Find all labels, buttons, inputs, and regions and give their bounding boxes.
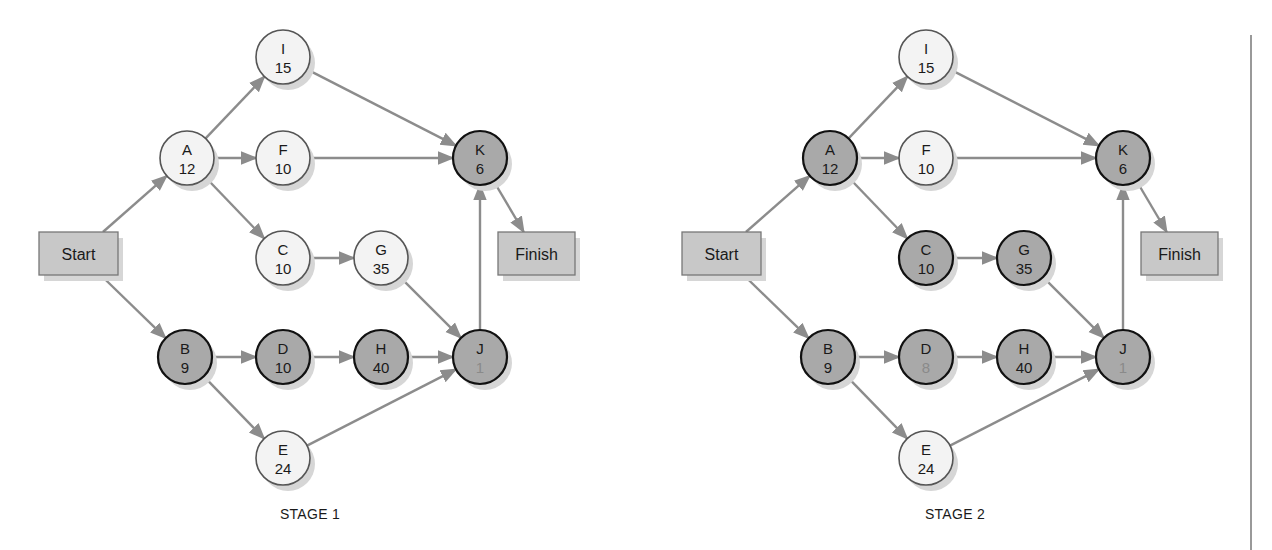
edge-start-to-a [746, 176, 810, 232]
edge-start-to-a [103, 176, 167, 232]
node-duration-value: 10 [275, 160, 292, 177]
edge-a-to-c [206, 177, 265, 238]
node-activity-label: K [1118, 141, 1128, 158]
node-activity-label: K [475, 141, 485, 158]
node-duration-value: 35 [1016, 260, 1033, 277]
node-duration-value: 1 [1119, 359, 1127, 376]
node-j: J1 [1096, 330, 1155, 390]
node-duration-value: 40 [1016, 359, 1033, 376]
node-activity-label: G [1018, 241, 1030, 258]
node-duration-value: 15 [275, 59, 292, 76]
node-duration-value: 9 [824, 359, 832, 376]
node-i: I15 [899, 30, 958, 90]
node-c: C10 [256, 231, 315, 291]
node-activity-label: B [180, 340, 190, 357]
node-activity-label: E [278, 441, 288, 458]
edge-start-to-b [744, 275, 809, 338]
edge-a-to-i [206, 77, 265, 139]
node-h: H40 [997, 330, 1056, 390]
node-a: A12 [160, 131, 219, 191]
node-duration-value: 12 [822, 160, 839, 177]
node-duration-value: 1 [476, 359, 484, 376]
node-duration-value: 6 [476, 160, 484, 177]
node-duration-value: 40 [373, 359, 390, 376]
finish-box: Finish [1141, 232, 1223, 281]
stage-2-diagram: StartFinishI15A12F10K6C10G35B9D8H40J1E24… [682, 30, 1223, 522]
node-activity-label: F [921, 141, 930, 158]
node-e: E24 [899, 431, 958, 491]
node-activity-label: J [1119, 340, 1127, 357]
edge-k-to-finish [1137, 181, 1167, 232]
node-duration-value: 9 [181, 359, 189, 376]
node-duration-value: 8 [922, 359, 930, 376]
node-f: F10 [899, 131, 958, 191]
edge-i-to-k [950, 69, 1099, 145]
edge-g-to-j [1043, 277, 1104, 338]
node-k: K6 [453, 131, 512, 191]
node-duration-value: 10 [918, 160, 935, 177]
node-duration-value: 15 [918, 59, 935, 76]
node-duration-value: 10 [918, 260, 935, 277]
node-d: D8 [899, 330, 958, 390]
edge-b-to-e [847, 376, 907, 438]
node-duration-value: 10 [275, 260, 292, 277]
node-duration-value: 24 [918, 460, 935, 477]
node-f: F10 [256, 131, 315, 191]
node-j: J1 [453, 330, 512, 390]
node-activity-label: G [375, 241, 387, 258]
stage-1-diagram: StartFinishI15A12F10K6C10G35B9D10H40J1E2… [39, 30, 580, 522]
node-g: G35 [354, 231, 413, 291]
node-activity-label: H [1019, 340, 1030, 357]
node-duration-value: 35 [373, 260, 390, 277]
node-b: B9 [801, 330, 860, 390]
node-a: A12 [803, 131, 862, 191]
node-activity-label: D [278, 340, 289, 357]
node-g: G35 [997, 231, 1056, 291]
node-e: E24 [256, 431, 315, 491]
node-i: I15 [256, 30, 315, 90]
start-box: Start [39, 232, 123, 281]
finish-box: Finish [498, 232, 580, 281]
node-b: B9 [158, 330, 217, 390]
finish-box-label: Finish [1158, 246, 1201, 263]
edge-g-to-j [400, 277, 461, 338]
node-d: D10 [256, 330, 315, 390]
edge-start-to-b [101, 275, 166, 338]
edge-i-to-k [307, 69, 456, 145]
edge-a-to-c [849, 177, 908, 238]
node-activity-label: B [823, 340, 833, 357]
finish-box-label: Finish [515, 246, 558, 263]
edge-b-to-e [204, 376, 264, 438]
stage-1-label: STAGE 1 [280, 506, 340, 522]
start-box: Start [682, 232, 766, 281]
node-duration-value: 6 [1119, 160, 1127, 177]
node-duration-value: 12 [179, 160, 196, 177]
node-activity-label: J [476, 340, 484, 357]
node-activity-label: C [278, 241, 289, 258]
node-h: H40 [354, 330, 413, 390]
node-activity-label: H [376, 340, 387, 357]
start-box-label: Start [705, 246, 739, 263]
node-duration-value: 24 [275, 460, 292, 477]
node-activity-label: A [182, 141, 192, 158]
node-activity-label: I [281, 40, 285, 57]
node-c: C10 [899, 231, 958, 291]
node-activity-label: I [924, 40, 928, 57]
stages-layer: StartFinishI15A12F10K6C10G35B9D10H40J1E2… [39, 30, 1223, 522]
edge-k-to-finish [494, 181, 524, 232]
node-duration-value: 10 [275, 359, 292, 376]
node-activity-label: A [825, 141, 835, 158]
network-diagram: StartFinishI15A12F10K6C10G35B9D10H40J1E2… [0, 0, 1272, 550]
start-box-label: Start [62, 246, 96, 263]
node-activity-label: E [921, 441, 931, 458]
stage-2-label: STAGE 2 [925, 506, 985, 522]
node-activity-label: D [921, 340, 932, 357]
node-k: K6 [1096, 131, 1155, 191]
node-activity-label: C [921, 241, 932, 258]
node-activity-label: F [278, 141, 287, 158]
edge-a-to-i [849, 77, 908, 139]
